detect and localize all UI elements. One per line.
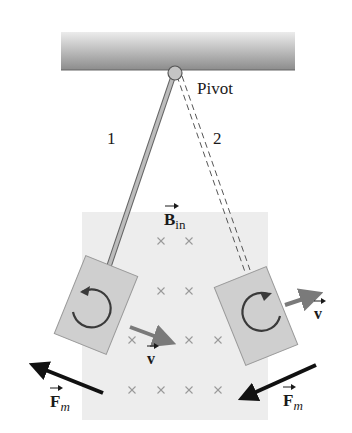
field-subscript: in	[175, 217, 185, 232]
position-1-label: 1	[107, 129, 116, 149]
pivot-joint	[168, 66, 182, 80]
pivot-label: Pivot	[197, 79, 233, 99]
force-label-right: Fm	[283, 391, 303, 411]
position-2-label: 2	[213, 129, 222, 149]
velocity-label-left: v	[147, 350, 155, 368]
velocity-arrow-right	[285, 296, 312, 305]
field-label: Bin	[164, 210, 185, 230]
ceiling-support	[61, 32, 295, 70]
force-label-left: Fm	[50, 392, 70, 412]
velocity-label-right: v	[314, 305, 322, 323]
field-symbol: B	[164, 210, 175, 229]
